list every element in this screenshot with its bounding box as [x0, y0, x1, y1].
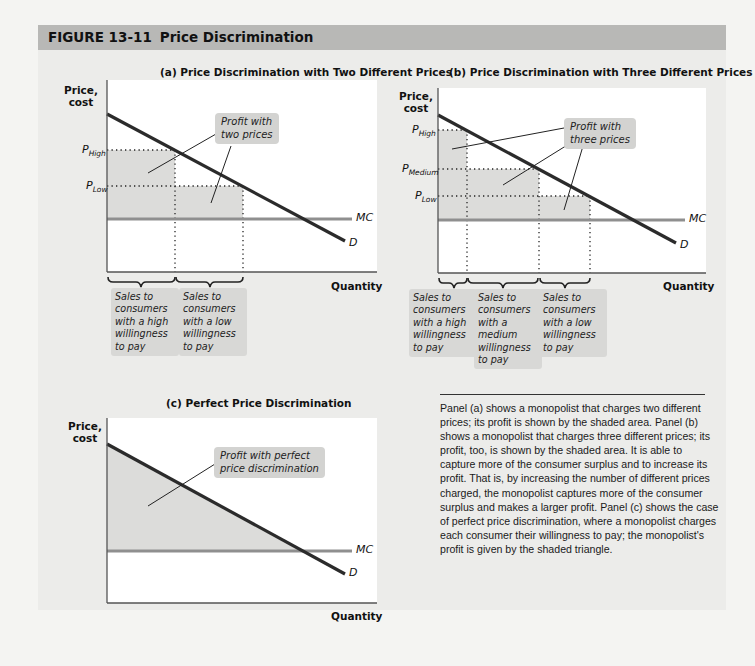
panel-c-profit-callout: Profit with perfect price discrimination [214, 447, 325, 478]
panel-b-x-axis-label: Quantity [663, 280, 714, 292]
panel-a-plot [107, 80, 377, 287]
panel-a-phigh-label: PHigh [82, 143, 106, 158]
panel-c-plot [107, 418, 377, 603]
panel-a-brace-high [108, 277, 175, 287]
panel-a-mc-label: MC [356, 211, 373, 224]
panel-a-x-axis-label: Quantity [331, 280, 382, 292]
panel-b-sales-medium: Sales to consumers with a medium willing… [474, 289, 542, 369]
panel-b-plow-label: PLow [415, 189, 437, 204]
panel-b-pmedium-label: PMedium [402, 162, 439, 177]
panel-c-x-axis-label: Quantity [331, 610, 382, 622]
panel-b-brace-high [439, 278, 467, 288]
panel-a-y-axis-label: Price, cost [58, 84, 104, 108]
panel-b-mc-label: MC [689, 212, 706, 225]
panel-c-d-label: D [349, 566, 357, 579]
panel-b-profit-high [438, 130, 467, 220]
panel-b-profit-callout: Profit with three prices [564, 118, 636, 149]
panel-b-y-axis-label: Price, cost [397, 90, 435, 114]
panel-b-sales-high: Sales to consumers with a high willingne… [409, 289, 477, 357]
panel-a-brace-low [176, 277, 243, 287]
panel-b-brace-medium [468, 278, 538, 288]
caption-divider [440, 394, 705, 395]
panel-b-brace-low [540, 278, 590, 288]
panel-b-sales-low: Sales to consumers with a low willingnes… [539, 289, 607, 357]
panel-b-title: (b) Price Discrimination with Three Diff… [449, 66, 753, 78]
panel-b-profit-medium [467, 169, 539, 220]
panel-c-mc-label: MC [356, 543, 373, 556]
panel-b-phigh-label: PHigh [412, 123, 436, 138]
figure-caption: Panel (a) shows a monopolist that charge… [440, 401, 720, 556]
panel-a-profit-callout: Profit with two prices [215, 113, 279, 144]
panel-a-title: (a) Price Discrimination with Two Differ… [160, 66, 452, 78]
panel-a-profit-high [107, 150, 175, 219]
panel-c-title: (c) Perfect Price Discrimination [166, 397, 352, 409]
panel-b-d-label: D [680, 238, 688, 251]
panel-a-y-label-line2: cost [58, 96, 104, 108]
panel-a-d-label: D [349, 236, 357, 249]
panel-a-sales-low: Sales to consumers with a low willingnes… [179, 288, 247, 356]
panel-c-y-axis-label: Price, cost [66, 420, 104, 444]
panel-a-plow-label: PLow [86, 179, 108, 194]
panel-a-sales-high: Sales to consumers with a high willingne… [111, 288, 179, 356]
panel-a-y-label-line1: Price, [58, 84, 104, 96]
panel-a-profit-low [175, 186, 243, 219]
